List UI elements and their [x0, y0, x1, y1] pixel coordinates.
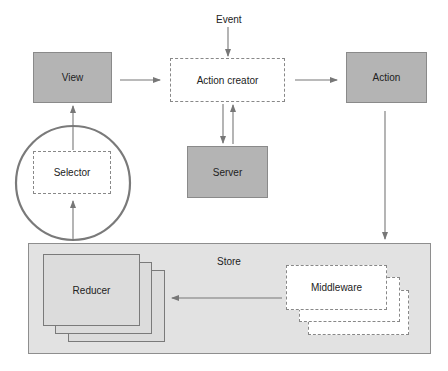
redux-flow-diagram: Store Reducer Middleware Event View Acti… [0, 0, 448, 371]
connectors [0, 0, 448, 371]
